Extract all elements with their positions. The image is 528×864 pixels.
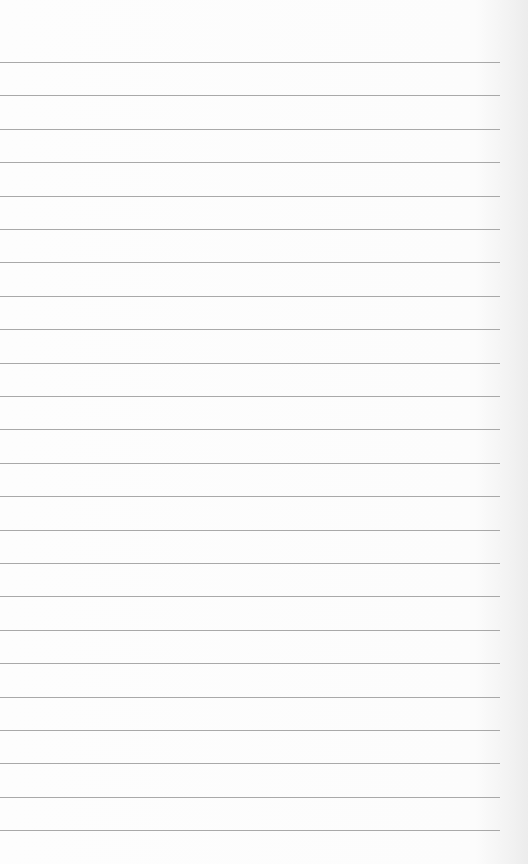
ruled-line: [0, 596, 500, 597]
ruled-line: [0, 62, 500, 63]
ruled-line: [0, 763, 500, 764]
ruled-line: [0, 663, 500, 664]
ruled-line: [0, 229, 500, 230]
ruled-line: [0, 262, 500, 263]
ruled-line: [0, 730, 500, 731]
ruled-line: [0, 296, 500, 297]
ruled-line: [0, 396, 500, 397]
ruled-line: [0, 496, 500, 497]
ruled-line: [0, 363, 500, 364]
ruled-line: [0, 463, 500, 464]
lined-paper-page: [0, 0, 528, 864]
ruled-line: [0, 630, 500, 631]
ruled-line: [0, 95, 500, 96]
ruled-line: [0, 329, 500, 330]
ruled-line: [0, 129, 500, 130]
ruled-line: [0, 797, 500, 798]
ruled-line: [0, 563, 500, 564]
ruled-line: [0, 429, 500, 430]
ruled-line: [0, 530, 500, 531]
ruled-line: [0, 196, 500, 197]
ruled-line: [0, 162, 500, 163]
ruled-line: [0, 830, 500, 831]
ruled-line: [0, 697, 500, 698]
